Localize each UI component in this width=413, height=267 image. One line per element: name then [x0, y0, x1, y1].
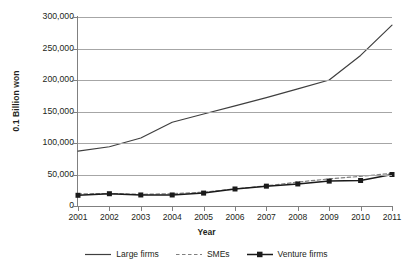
data-point-marker: [327, 179, 332, 184]
x-axis-title: Year: [0, 227, 413, 237]
plot-area: [78, 17, 392, 206]
x-axis-tick-mark: [266, 207, 267, 211]
y-axis-tick-label: 250,000: [18, 44, 74, 53]
x-axis-tick-labels: 2001200220032004200520062007200820092010…: [0, 212, 413, 226]
data-point-marker: [201, 191, 206, 196]
series-line-large-firms: [78, 25, 392, 151]
data-point-marker: [76, 193, 81, 198]
y-axis-tick-label: 50,000: [18, 170, 74, 179]
legend-item-smes[interactable]: SMEs: [176, 249, 230, 259]
legend-item-large-firms[interactable]: Large firms: [85, 249, 159, 259]
y-axis-tick-mark: [72, 143, 78, 144]
y-axis-tick-mark: [72, 49, 78, 50]
legend-item-venture-firms[interactable]: Venture firms: [247, 249, 328, 259]
legend-label: Venture firms: [278, 249, 328, 259]
x-axis-tick-mark: [361, 207, 362, 211]
x-axis-tick-label: 2011: [372, 212, 412, 222]
gridline: [78, 175, 392, 176]
data-point-marker: [170, 192, 175, 197]
data-point-marker: [138, 192, 143, 197]
y-axis-tick-label: 0: [18, 201, 74, 210]
data-point-marker: [107, 191, 112, 196]
y-axis-tick-label: 150,000: [18, 107, 74, 116]
data-point-marker: [233, 186, 238, 191]
x-axis-tick-mark: [235, 207, 236, 211]
gridline: [78, 143, 392, 144]
x-axis-tick-mark: [298, 207, 299, 211]
data-point-marker: [358, 178, 363, 183]
legend-label: SMEs: [207, 249, 230, 259]
y-axis-tick-mark: [72, 112, 78, 113]
gridline: [78, 17, 392, 18]
y-axis-tick-label: 300,000: [18, 12, 74, 21]
y-axis-tick-mark: [72, 80, 78, 81]
line-chart: 0.1 Billion won 300,000250,000200,000150…: [0, 0, 413, 267]
y-axis-tick-label: 100,000: [18, 138, 74, 147]
gridline: [78, 49, 392, 50]
x-axis-tick-mark: [78, 207, 79, 211]
data-point-marker: [264, 184, 269, 189]
y-axis-tick-labels: 300,000250,000200,000150,000100,00050,00…: [18, 0, 74, 215]
x-axis-tick-mark: [172, 207, 173, 211]
y-axis-tick-label: 200,000: [18, 75, 74, 84]
legend-swatch-icon: [176, 250, 202, 259]
x-axis-tick-mark: [141, 207, 142, 211]
gridline: [78, 112, 392, 113]
x-axis-tick-mark: [329, 207, 330, 211]
legend-swatch-icon: [247, 250, 273, 259]
x-axis-tick-mark: [204, 207, 205, 211]
x-axis-tick-mark: [109, 207, 110, 211]
legend-label: Large firms: [116, 249, 159, 259]
y-axis-tick-mark: [72, 175, 78, 176]
y-axis-tick-mark: [72, 17, 78, 18]
gridline: [78, 80, 392, 81]
chart-legend: Large firmsSMEsVenture firms: [0, 245, 413, 263]
data-point-marker: [295, 181, 300, 186]
x-axis-tick-mark: [392, 207, 393, 211]
legend-swatch-icon: [85, 250, 111, 259]
